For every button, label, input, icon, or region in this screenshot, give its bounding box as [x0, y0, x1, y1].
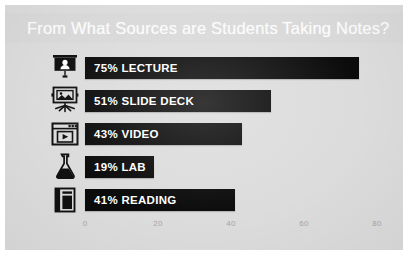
title-band: From What Sources are Students Taking No… — [5, 13, 403, 43]
x-tick-40: 40 — [226, 219, 235, 228]
bar-label-reading: 41% READING — [85, 194, 177, 206]
chart-row-video: 43% VIDEO — [5, 123, 403, 145]
chart-row-lab: 19% LAB — [5, 156, 403, 178]
bar-reading: 41% READING — [85, 189, 235, 211]
bar-slide-deck: 51% SLIDE DECK — [85, 90, 271, 112]
bar-video: 43% VIDEO — [85, 123, 242, 145]
x-tick-20: 20 — [153, 219, 162, 228]
x-tick-0: 0 — [83, 219, 88, 228]
bar-label-lab: 19% LAB — [85, 161, 146, 173]
bar-label-video: 43% VIDEO — [85, 128, 159, 140]
x-tick-60: 60 — [299, 219, 308, 228]
chart-row-lecture: 75% LECTURE — [5, 57, 403, 79]
bar-lab: 19% LAB — [85, 156, 154, 178]
video-player-icon — [48, 117, 82, 151]
bar-lecture: 75% LECTURE — [85, 57, 359, 79]
lab-flask-icon — [48, 150, 82, 184]
x-tick-80: 80 — [372, 219, 381, 228]
chart-row-reading: 41% READING — [5, 189, 403, 211]
bar-label-lecture: 75% LECTURE — [85, 62, 178, 74]
presentation-person-icon — [48, 51, 82, 85]
page-title: From What Sources are Students Taking No… — [5, 19, 390, 38]
bar-label-slide-deck: 51% SLIDE DECK — [85, 95, 194, 107]
book-icon — [48, 183, 82, 217]
chart-row-slide-deck: 51% SLIDE DECK — [5, 90, 403, 112]
chart-plot-area: 75% LECTURE — [5, 51, 403, 250]
x-axis: 0 20 40 60 80 — [5, 219, 403, 239]
projector-screen-image-icon — [48, 84, 82, 118]
infographic-card: From What Sources are Students Taking No… — [5, 5, 403, 250]
